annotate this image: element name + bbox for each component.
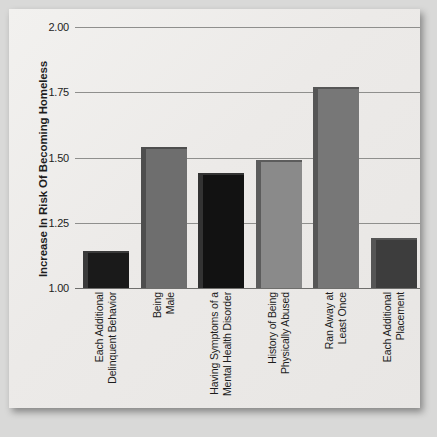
x-axis-label-line2: Least Once: [336, 292, 349, 408]
bar-face: [83, 251, 129, 288]
x-axis-label-6: Each AdditionalPlacement: [381, 292, 411, 408]
bar-face: [256, 160, 302, 288]
x-axis-label-line2: Delinquent Behavior: [106, 292, 119, 408]
bar-left-edge: [83, 251, 88, 288]
x-axis-label-line2: Male: [164, 292, 177, 408]
x-axis-label-3: Having Symptoms of aMental Health Disord…: [208, 292, 238, 408]
y-tick-label: 1.50: [48, 152, 69, 164]
gridline-1.00: 1.00: [75, 288, 420, 289]
x-axis-label-line2: Physically Abused: [279, 292, 292, 408]
x-axis-label-line1: History of Being: [266, 292, 278, 364]
chart-panel: Increase In Risk Of Becoming Homeless 1.…: [9, 9, 420, 408]
y-tick-label: 1.25: [48, 217, 69, 229]
bar-face: [198, 173, 244, 288]
bar-2: [141, 147, 187, 288]
bar-left-edge: [141, 147, 146, 288]
bar-top-edge: [198, 173, 244, 175]
x-axis-label-line1: Having Symptoms of a: [208, 292, 220, 395]
bar-face: [141, 147, 187, 288]
gridline-1.25: 1.25: [75, 223, 420, 224]
x-axis-label-2: BeingMale: [151, 292, 181, 408]
bar-top-edge: [83, 251, 129, 253]
x-axis-label-5: Ran Away atLeast Once: [323, 292, 353, 408]
x-axis-label-1: Each AdditionalDelinquent Behavior: [93, 292, 123, 408]
y-tick-label: 1.00: [48, 282, 69, 294]
bar-left-edge: [313, 87, 318, 288]
bar-top-edge: [313, 87, 359, 89]
bar-face: [371, 238, 417, 288]
bar-left-edge: [256, 160, 261, 288]
bar-4: [256, 160, 302, 288]
bar-3: [198, 173, 244, 288]
x-axis-label-line1: Being: [151, 292, 163, 318]
x-axis-label-line2: Mental Health Disorder: [221, 292, 234, 408]
y-tick-label: 1.75: [48, 86, 69, 98]
x-axis-label-line1: Each Additional: [93, 292, 105, 362]
bar-left-edge: [371, 238, 376, 288]
bar-face: [313, 87, 359, 288]
x-axis-label-line1: Each Additional: [381, 292, 393, 362]
bar-top-edge: [371, 238, 417, 240]
bar-top-edge: [141, 147, 187, 149]
plot-area: 1.001.251.501.752.00: [75, 27, 420, 288]
bar-6: [371, 238, 417, 288]
bar-top-edge: [256, 160, 302, 162]
x-axis-labels: Each AdditionalDelinquent BehaviorBeingM…: [75, 292, 420, 408]
bar-left-edge: [198, 173, 203, 288]
bar-5: [313, 87, 359, 288]
x-axis-label-line1: Ran Away at: [323, 292, 335, 349]
bar-1: [83, 251, 129, 288]
x-axis-label-line2: Placement: [394, 292, 407, 408]
x-axis-label-4: History of BeingPhysically Abused: [266, 292, 296, 408]
gridline-1.50: 1.50: [75, 158, 420, 159]
y-tick-label: 2.00: [48, 21, 69, 33]
gridline-1.75: 1.75: [75, 92, 420, 93]
gridline-2.00: 2.00: [75, 27, 420, 28]
